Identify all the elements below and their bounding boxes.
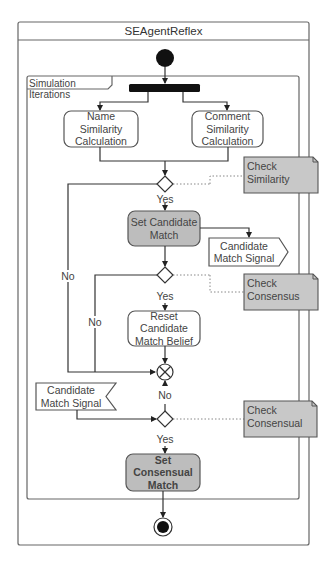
initial-node [156,49,174,67]
set-candidate-match-label: Set Candidate Match [130,211,198,246]
outer-frame-title: SEAgentReflex [18,25,309,37]
accept-signal-label: Candidate Match Signal [37,383,105,410]
edge-label-yes-2: Yes [153,290,177,302]
decision-consensus [157,267,173,283]
edge-label-no-2: No [85,316,105,328]
final-node [154,518,172,536]
decision-consensual [157,411,173,427]
comment-similarity-label: Comment Similarity Calculation [193,111,262,147]
edge-label-no-3: No [155,389,175,401]
note-check-consensual-text: Check Consensual [247,404,309,429]
edge-label-yes-3: Yes [153,433,177,445]
merge-node [157,364,173,380]
note-check-similarity-text: Check Similarity [247,160,307,185]
name-similarity-label: Name Similarity Calculation [66,111,136,147]
reset-candidate-label: Reset Candidate Match Belief [130,311,198,346]
edge-label-yes-1: Yes [153,193,177,205]
edge-label-no-1: No [58,270,78,282]
decision-similarity [157,176,173,192]
send-signal-label: Candidate Match Signal [211,238,277,266]
fork-bar [129,84,200,92]
inner-frame-label: Simulation Iterations [29,78,81,100]
note-check-consensus-text: Check Consensus [247,277,307,302]
set-consensual-match-label: Set Consensual Match [128,454,198,491]
